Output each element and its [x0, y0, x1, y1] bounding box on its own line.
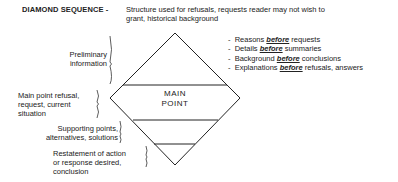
sequence-rules-list: - Reasons before requests - Details befo…: [228, 35, 363, 72]
list-item: - Details before summaries: [228, 44, 363, 53]
label-preliminary: Preliminary information: [40, 50, 107, 68]
brace-icon-restatement: [146, 146, 147, 167]
list-item: - Reasons before requests: [228, 35, 363, 44]
label-restatement: Restatement of action or response desire…: [53, 149, 145, 176]
brace-icon-supporting: [120, 121, 121, 143]
label-supporting-points: Supporting points, alternatives, solutio…: [30, 124, 118, 142]
brace-icon-preliminary: [110, 36, 112, 84]
list-item: - Background before conclusions: [228, 54, 363, 63]
label-main-point: Main point refusal, request, current sit…: [18, 91, 98, 118]
main-point-label: MAIN POINT: [150, 89, 200, 109]
list-item: - Explanations before refusals, answers: [228, 63, 363, 72]
